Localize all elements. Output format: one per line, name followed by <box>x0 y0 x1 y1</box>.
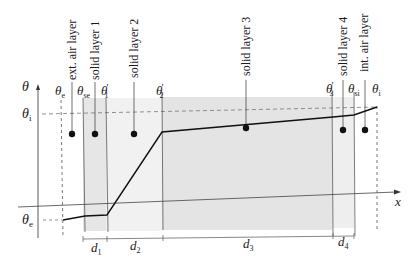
theta-si-line <box>354 92 355 236</box>
solid-layer-3-shade <box>162 97 332 230</box>
theta-axis-label: θ <box>22 79 29 94</box>
theta-axis-arrow-icon <box>36 84 40 90</box>
label-theta-e: θe <box>55 83 65 100</box>
theta-i-level-label: θi <box>22 106 32 123</box>
wall-temperature-profile-diagram: θ x θi θe ext. air layer solid la <box>0 0 419 262</box>
label-theta-se: θse <box>77 83 91 100</box>
label-d1: d1 <box>91 240 102 257</box>
ext-boundary-dashed-line <box>61 100 63 238</box>
solid-layer-1-shade <box>83 98 106 231</box>
layer-label-ext-air: ext. air layer <box>65 20 79 80</box>
label-theta-2-prime: θ′2 <box>156 82 164 100</box>
layer-label-solid-4: solid layer 4 <box>336 17 350 76</box>
layer-label-solid-3: solid layer 3 <box>239 17 253 76</box>
label-theta-si: θsi <box>348 81 361 98</box>
layer-label-solid-2: solid layer 2 <box>127 19 141 78</box>
label-d4: d4 <box>338 234 349 251</box>
layer-label-int-air: int. air layer <box>357 14 371 72</box>
thickness-dimension <box>83 233 354 242</box>
label-theta-i: θi <box>372 81 381 98</box>
label-theta-1-prime: θ′1 <box>101 82 109 100</box>
x-axis-label-text: x <box>394 194 401 209</box>
layer-shading <box>83 97 354 231</box>
label-d3: d3 <box>243 236 254 253</box>
label-d2: d2 <box>130 238 141 255</box>
label-theta-3-prime: θ′3 <box>326 80 334 98</box>
theta-e-level-label: θe <box>22 212 33 229</box>
layer-label-solid-1: solid layer 1 <box>88 21 102 80</box>
